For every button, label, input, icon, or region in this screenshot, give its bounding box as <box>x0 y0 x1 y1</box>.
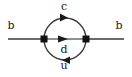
label-outgoing-b: b <box>112 20 126 31</box>
label-middle-line-d: d <box>57 44 71 55</box>
upper-arc-c-propagator <box>44 18 86 39</box>
middle-line-arrow-right-icon <box>58 36 68 43</box>
label-lower-arc-u: u <box>57 60 71 71</box>
upper-arc-arrow-right-icon <box>60 14 68 22</box>
label-upper-arc-c: c <box>57 1 71 12</box>
vertex-right <box>83 36 90 43</box>
label-incoming-b: b <box>4 20 18 31</box>
feynman-diagram-figure: b b c d u <box>0 0 132 77</box>
vertex-left <box>41 36 48 43</box>
